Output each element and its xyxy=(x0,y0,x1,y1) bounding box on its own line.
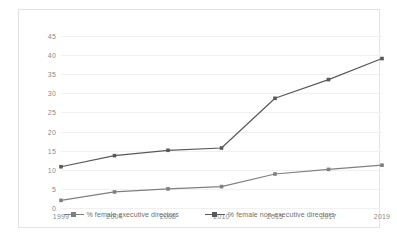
gridline xyxy=(61,208,382,209)
series-2 xyxy=(59,57,384,169)
data-point-marker xyxy=(113,154,117,158)
y-axis-tick-label: 35 xyxy=(48,71,56,78)
legend-item-2[interactable]: % female non-executive directors xyxy=(205,211,335,218)
data-point-marker xyxy=(59,199,63,203)
y-axis-tick-label: 20 xyxy=(48,128,56,135)
chart-legend: % female executive directors% female non… xyxy=(19,211,379,218)
legend-swatch-icon xyxy=(205,211,225,218)
y-axis-tick-label: 45 xyxy=(48,33,56,40)
data-point-marker xyxy=(327,78,331,82)
legend-label: % female non-executive directors xyxy=(228,211,335,218)
series-1 xyxy=(59,163,384,202)
data-point-marker xyxy=(273,172,277,176)
legend-label: % female executive directors xyxy=(87,211,179,218)
y-axis-tick-label: 10 xyxy=(48,166,56,173)
series-line xyxy=(61,59,382,167)
data-point-marker xyxy=(327,168,331,172)
data-point-marker xyxy=(220,146,224,150)
legend-swatch-icon xyxy=(64,211,84,218)
data-point-marker xyxy=(380,57,384,61)
data-point-marker xyxy=(59,165,63,169)
y-axis-tick-label: 25 xyxy=(48,109,56,116)
y-axis-tick-label: 15 xyxy=(48,147,56,154)
y-axis-tick-label: 30 xyxy=(48,90,56,97)
legend-item-1[interactable]: % female executive directors xyxy=(64,211,179,218)
data-point-marker xyxy=(166,148,170,152)
data-point-marker xyxy=(273,97,277,101)
data-point-marker xyxy=(166,187,170,191)
plot-area: 051015202530354045 199920042008201020152… xyxy=(61,36,382,208)
data-point-marker xyxy=(220,185,224,189)
data-point-marker xyxy=(113,190,117,194)
y-axis-tick-label: 40 xyxy=(48,52,56,59)
series-lines-group xyxy=(61,36,382,208)
series-line xyxy=(61,165,382,200)
y-axis-tick-label: 5 xyxy=(52,185,56,192)
chart-container: 051015202530354045 199920042008201020152… xyxy=(18,9,380,228)
data-point-marker xyxy=(380,163,384,167)
